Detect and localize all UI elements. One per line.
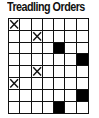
filled-cell (77, 54, 88, 66)
x-marked-cell (9, 78, 20, 90)
grid-cell (54, 54, 65, 66)
grid-cell (54, 90, 65, 102)
grid-cell (9, 66, 20, 78)
grid-cell (65, 66, 76, 78)
grid-cell (20, 31, 31, 43)
grid-cell (32, 43, 43, 55)
grid-cell (43, 90, 54, 102)
grid-cell (20, 54, 31, 66)
grid-cell (20, 90, 31, 102)
grid-cell (65, 90, 76, 102)
grid-cell (9, 43, 20, 55)
grid-cell (54, 66, 65, 78)
grid-cell (77, 43, 88, 55)
grid-cell (9, 31, 20, 43)
grid-cell (32, 78, 43, 90)
grid-cell (65, 102, 76, 114)
grid-cell (20, 43, 31, 55)
filled-cell (54, 43, 65, 55)
grid-cell (77, 66, 88, 78)
grid-cell (32, 102, 43, 114)
grid-cell (65, 78, 76, 90)
x-mark-icon (32, 66, 42, 77)
grid-cell (77, 31, 88, 43)
grid-cell (43, 31, 54, 43)
x-mark-icon (9, 19, 19, 30)
grid-cell (54, 31, 65, 43)
treadling-grid (8, 18, 89, 114)
grid-cell (20, 19, 31, 31)
x-mark-icon (32, 31, 42, 42)
grid-cell (43, 43, 54, 55)
grid-cell (77, 19, 88, 31)
x-marked-cell (9, 19, 20, 31)
diagram-title: Treadling Orders (7, 0, 84, 15)
filled-cell (54, 102, 65, 114)
grid-cell (65, 43, 76, 55)
grid-cell (43, 54, 54, 66)
grid-cell (65, 31, 76, 43)
grid-cell (54, 19, 65, 31)
grid-cell (32, 90, 43, 102)
grid-cell (77, 102, 88, 114)
x-mark-icon (9, 78, 19, 89)
filled-cell (77, 90, 88, 102)
grid-cell (20, 78, 31, 90)
grid-cell (20, 66, 31, 78)
grid-cell (9, 102, 20, 114)
grid-cell (20, 102, 31, 114)
grid-cell (9, 54, 20, 66)
grid-cell (65, 54, 76, 66)
grid-cell (54, 78, 65, 90)
x-marked-cell (32, 66, 43, 78)
grid-cell (65, 19, 76, 31)
grid-cell (43, 78, 54, 90)
grid-cell (32, 19, 43, 31)
grid-cell (32, 54, 43, 66)
grid-cell (43, 66, 54, 78)
grid-cell (9, 90, 20, 102)
grid-cell (43, 19, 54, 31)
grid-cell (43, 102, 54, 114)
grid-cell (77, 78, 88, 90)
x-marked-cell (32, 31, 43, 43)
